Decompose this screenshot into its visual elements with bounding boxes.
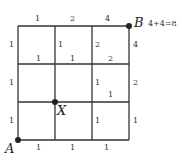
label-x: X xyxy=(56,103,67,118)
edge-label: 4 xyxy=(133,40,138,49)
edge-label: 1 xyxy=(104,143,109,152)
edge-label: 1 xyxy=(95,116,100,125)
edge-label: 2 xyxy=(95,40,100,49)
grid-lines xyxy=(18,26,129,140)
point-b xyxy=(126,23,132,29)
edge-label: 1 xyxy=(9,40,14,49)
label-b: B xyxy=(133,15,144,30)
edge-label: 1 xyxy=(133,116,138,125)
point-a xyxy=(15,137,21,143)
edge-label: 1 xyxy=(70,143,75,152)
edge-label: 2 xyxy=(70,14,75,23)
b-sum-annotation: 4+4=8 xyxy=(148,19,177,28)
edge-label: 1 xyxy=(36,54,41,63)
edge-label: 1 xyxy=(9,116,14,125)
edge-label: 2 xyxy=(108,54,113,63)
edge-label: 1 xyxy=(36,143,41,152)
edge-label: 1 xyxy=(95,78,100,87)
lattice-grid-diagram: A X B 4+4=8 1 2 4 1 1 2 4 1 1 2 1 1 2 1 … xyxy=(0,0,182,163)
edge-label: 2 xyxy=(133,78,138,87)
label-a: A xyxy=(4,141,14,156)
edge-label: 1 xyxy=(58,40,63,49)
edge-label: 4 xyxy=(105,14,110,23)
edge-label: 1 xyxy=(70,54,75,63)
edge-label: 1 xyxy=(35,14,40,23)
edge-label: 1 xyxy=(9,78,14,87)
edge-label: 1 xyxy=(108,90,113,99)
